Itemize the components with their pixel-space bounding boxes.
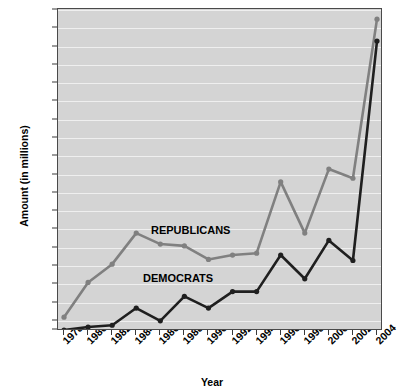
data-point <box>110 262 115 267</box>
data-point <box>326 238 331 243</box>
data-point <box>182 294 187 299</box>
data-point <box>374 38 379 43</box>
x-axis-title: Year <box>201 376 223 388</box>
data-point <box>302 276 307 281</box>
data-point <box>61 327 66 330</box>
data-point <box>230 289 235 294</box>
series-line-democrats <box>64 41 377 330</box>
data-point <box>278 179 283 184</box>
data-point <box>134 305 139 310</box>
data-point <box>134 230 139 235</box>
y-axis-title: Amount (in millions) <box>18 96 30 256</box>
data-point <box>110 323 115 328</box>
data-point <box>206 257 211 262</box>
x-axis-title-wrap: Year <box>0 376 390 388</box>
data-point <box>206 305 211 310</box>
data-point <box>85 280 90 285</box>
data-point <box>254 251 259 256</box>
data-point <box>278 252 283 257</box>
series-label-democrats: DEMOCRATS <box>143 272 213 284</box>
data-point <box>85 324 90 329</box>
data-point <box>158 318 163 323</box>
data-point <box>230 252 235 257</box>
data-point <box>350 258 355 263</box>
data-point <box>302 230 307 235</box>
data-point <box>182 243 187 248</box>
series-layer <box>58 9 382 330</box>
data-point <box>158 241 163 246</box>
data-point <box>61 315 66 320</box>
data-point <box>254 289 259 294</box>
data-point <box>326 166 331 171</box>
data-point <box>374 17 379 22</box>
series-label-republicans: REPUBLICANS <box>151 224 230 236</box>
plot-area <box>57 8 382 330</box>
data-point <box>350 176 355 181</box>
